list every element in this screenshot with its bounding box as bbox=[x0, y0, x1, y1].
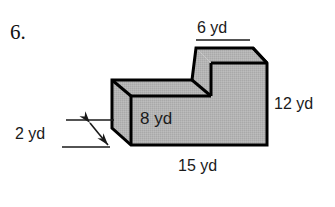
depth-double-arrow-icon bbox=[90, 123, 108, 145]
worksheet-figure-page: 6. bbox=[0, 0, 335, 207]
dimension-label-right: 12 yd bbox=[274, 96, 313, 112]
dimension-label-bottom: 15 yd bbox=[178, 158, 217, 174]
dimension-label-front: 8 yd bbox=[140, 110, 172, 127]
dimension-label-depth: 2 yd bbox=[15, 126, 45, 142]
dimension-label-top: 6 yd bbox=[197, 20, 227, 36]
